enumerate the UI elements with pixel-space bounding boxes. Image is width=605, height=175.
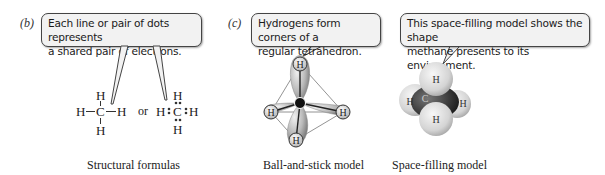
svg-text:C: C xyxy=(422,93,429,104)
callout-space-filling: This space-filling model shows the shape… xyxy=(400,13,590,47)
callout-line-1: Hydrogens form corners of a xyxy=(258,16,374,44)
svg-text:H: H xyxy=(267,107,274,118)
panel-label-c: (c) xyxy=(228,16,241,31)
svg-text:H: H xyxy=(406,96,413,107)
svg-text:H: H xyxy=(432,74,439,85)
svg-text:H: H xyxy=(459,98,466,109)
ball-and-stick-model: H H H H xyxy=(230,50,370,150)
caption-space-filling: Space-filling model xyxy=(392,158,487,173)
svg-text:H: H xyxy=(432,114,439,125)
space-filling-model: H H H H C xyxy=(395,60,485,150)
electron-dots xyxy=(0,0,220,175)
svg-text:H: H xyxy=(339,107,346,118)
callout-tetrahedron: Hydrogens form corners of a regular tetr… xyxy=(251,13,381,47)
caption-ball-and-stick: Ball-and-stick model xyxy=(263,158,364,173)
svg-text:H: H xyxy=(292,135,299,146)
callout-line-1: This space-filling model shows the shape xyxy=(407,16,583,44)
caption-structural: Structural formulas xyxy=(87,158,180,173)
svg-text:H: H xyxy=(296,59,303,70)
carbon-atom xyxy=(295,98,306,109)
